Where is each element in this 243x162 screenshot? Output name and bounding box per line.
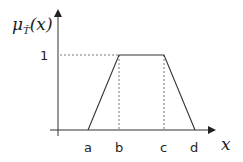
diagram-canvas: μT̃(x) 1 a b c d x bbox=[0, 0, 243, 162]
y-tick-1: 1 bbox=[40, 48, 48, 63]
x-axis-label: x bbox=[221, 134, 231, 154]
y-axis-label: μT̃(x) bbox=[12, 14, 53, 36]
x-tick-b: b bbox=[115, 140, 123, 155]
x-tick-a: a bbox=[84, 140, 92, 155]
membership-function-diagram: μT̃(x) 1 a b c d x bbox=[0, 0, 243, 162]
x-tick-d: d bbox=[190, 140, 198, 155]
trapezoid-curve bbox=[88, 55, 195, 130]
x-tick-c: c bbox=[160, 140, 167, 155]
